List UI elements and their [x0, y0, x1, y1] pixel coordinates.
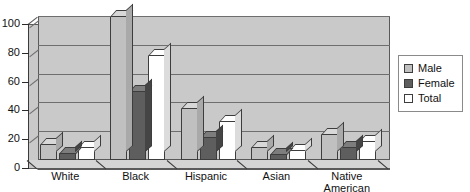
bar-asian-male — [251, 147, 268, 160]
x-axis-category-label: NativeAmerican — [312, 170, 382, 192]
bar-side-face — [305, 138, 312, 152]
x-axis-category-label: White — [30, 170, 100, 182]
bar-side-face — [94, 135, 101, 152]
chart-legend: Male Female Total — [398, 55, 463, 112]
x-axis-tick — [27, 160, 38, 169]
bar-side-face — [197, 96, 204, 152]
x-axis-label-line: Black — [100, 170, 170, 182]
legend-swatch-male-icon — [404, 64, 413, 73]
bar-black-male — [110, 16, 127, 160]
bar-side-face — [145, 79, 152, 152]
x-axis-tick — [167, 160, 178, 169]
bar-side-face — [235, 109, 242, 152]
legend-label-total: Total — [418, 93, 441, 104]
bar-asian-total — [289, 150, 306, 160]
bar-side-face — [164, 43, 171, 152]
bar-side-face — [126, 4, 133, 152]
x-axis-category-label: Hispanic — [171, 170, 241, 182]
legend-item-male: Male — [404, 61, 455, 76]
x-axis-label-line: White — [30, 170, 100, 182]
x-axis-category-label: Black — [100, 170, 170, 182]
bar-hispanic-male — [181, 108, 198, 160]
legend-item-total: Total — [404, 91, 455, 106]
legend-label-female: Female — [418, 78, 455, 89]
legend-swatch-female-icon — [404, 79, 413, 88]
legend-item-female: Female — [404, 76, 455, 91]
x-axis-category-label: Asian — [241, 170, 311, 182]
bar-side-face — [375, 129, 382, 152]
bar-white-female — [59, 153, 76, 160]
x-axis-label-line: Native — [312, 170, 382, 182]
x-axis-tick — [378, 160, 389, 169]
bar-white-male — [40, 144, 57, 160]
x-axis-label-line: Asian — [241, 170, 311, 182]
x-axis-label-line: Hispanic — [171, 170, 241, 182]
bar-asian-female — [270, 154, 287, 160]
bar-side-face — [267, 135, 274, 152]
legend-swatch-total-icon — [404, 94, 413, 103]
x-axis-tick — [237, 160, 248, 169]
bar-native-american-male — [321, 134, 338, 160]
legend-label-male: Male — [418, 63, 442, 74]
bar-native-american-female — [340, 147, 357, 160]
x-axis-tick — [96, 160, 107, 169]
bar-side-face — [56, 132, 63, 152]
x-axis-tick — [308, 160, 319, 169]
bar-chart: 100806040200 WhiteBlackHispanicAsianNati… — [0, 0, 470, 192]
x-axis-label-line: American — [312, 182, 382, 192]
